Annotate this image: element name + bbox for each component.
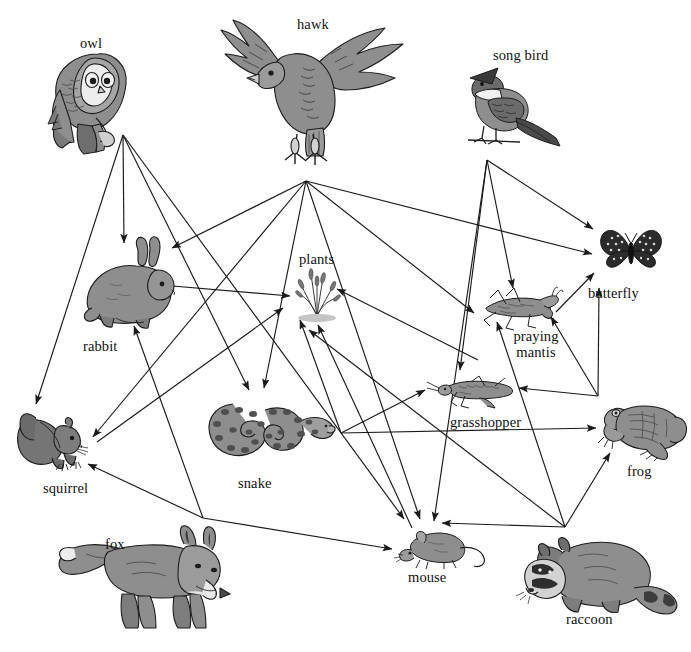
label-butterfly: butterfly — [588, 286, 639, 302]
owl-illustration — [40, 46, 140, 158]
mouse-illustration — [396, 528, 488, 570]
snake-illustration — [203, 396, 338, 470]
edge-hawk-butterfly — [306, 181, 592, 254]
label-rabbit: rabbit — [83, 339, 117, 355]
praying-mantis-illustration — [478, 284, 564, 334]
edge-hawk-rabbit — [172, 181, 306, 248]
hawk-illustration — [215, 18, 411, 176]
label-raccoon: raccoon — [566, 612, 613, 628]
plants-illustration — [289, 266, 345, 324]
edge-songbird-butterfly — [487, 160, 593, 229]
edge-raccoon-frog — [565, 453, 610, 527]
label-praying-mantis-line1: praying — [506, 328, 566, 344]
song-bird-illustration — [462, 64, 564, 160]
label-plants: plants — [299, 252, 334, 268]
label-grasshopper: grasshopper — [450, 415, 521, 431]
edge-frog-grasshopper — [519, 388, 598, 396]
edge-frog-butterfly — [598, 288, 599, 396]
label-owl: owl — [80, 36, 102, 52]
squirrel-illustration — [16, 400, 98, 474]
raccoon-illustration — [518, 534, 682, 618]
label-fox: fox — [105, 537, 125, 553]
fox-illustration — [56, 518, 246, 634]
label-song-bird: song bird — [493, 48, 548, 64]
frog-illustration — [600, 393, 688, 461]
edge-snake-grasshopper — [341, 390, 425, 433]
edge-songbird-mouse — [434, 160, 487, 521]
edge-fox-rabbit — [134, 326, 203, 518]
label-praying-mantis-line2: mantis — [506, 344, 566, 360]
label-frog: frog — [627, 464, 652, 480]
butterfly-illustration — [598, 225, 664, 281]
label-mouse: mouse — [408, 570, 446, 586]
edge-fox-squirrel — [88, 464, 203, 518]
grasshopper-illustration — [425, 372, 521, 410]
label-snake: snake — [238, 476, 272, 492]
label-hawk: hawk — [297, 17, 329, 33]
food-web-diagram: owl hawk song bird butterfly rabbit plan… — [0, 0, 691, 652]
edge-songbird-grasshopper — [460, 160, 487, 370]
label-praying-mantis: praying mantis — [506, 328, 566, 360]
edge-raccoon-mouse — [442, 523, 565, 527]
edge-songbird-mantis — [487, 160, 513, 288]
edge-grasshopper-plants — [337, 289, 478, 360]
rabbit-illustration — [80, 236, 190, 330]
label-squirrel: squirrel — [43, 481, 88, 497]
